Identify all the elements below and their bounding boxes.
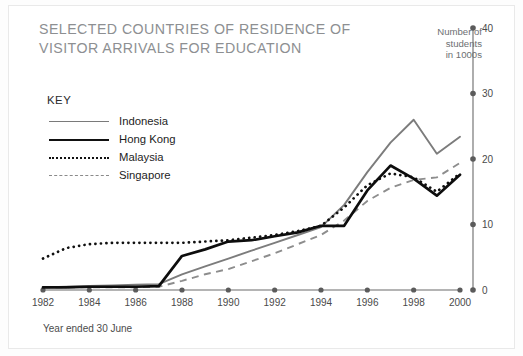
y-tick-label: 20 xyxy=(482,154,494,165)
x-tick-label: 1998 xyxy=(403,297,426,308)
figure-card: SELECTED COUNTRIES OF RESIDENCE OF VISIT… xyxy=(0,0,523,356)
series-line-hong-kong xyxy=(43,166,460,288)
x-tick-dot xyxy=(179,287,184,292)
x-tick-label: 1984 xyxy=(78,297,101,308)
x-tick-label: 1986 xyxy=(125,297,148,308)
y-tick-dot xyxy=(470,287,476,293)
x-tick-label: 1990 xyxy=(217,297,240,308)
series-group xyxy=(43,120,460,288)
figure-inner: SELECTED COUNTRIES OF RESIDENCE OF VISIT… xyxy=(9,6,514,348)
tick-labels-group: 1982198419861988199019921994199619982000… xyxy=(32,23,494,308)
y-tick-dot xyxy=(470,156,476,162)
x-tick-label: 1992 xyxy=(264,297,287,308)
x-tick-dot xyxy=(411,287,416,292)
x-tick-label: 1994 xyxy=(310,297,333,308)
x-tick-label: 2000 xyxy=(449,297,472,308)
x-tick-dot xyxy=(318,287,323,292)
y-tick-dot xyxy=(470,222,476,228)
y-tick-dot xyxy=(470,91,476,97)
y-tick-label: 30 xyxy=(482,88,494,99)
series-line-singapore xyxy=(43,163,460,287)
y-tick-label: 0 xyxy=(482,285,488,296)
chart-canvas: 1982198419861988199019921994199619982000… xyxy=(9,6,514,346)
x-tick-dot xyxy=(457,287,462,292)
x-tick-label: 1988 xyxy=(171,297,194,308)
x-tick-dot xyxy=(226,287,231,292)
x-tick-label: 1996 xyxy=(356,297,379,308)
x-axis-caption: Year ended 30 June xyxy=(43,323,132,334)
x-tick-dot xyxy=(87,287,92,292)
x-tick-dot xyxy=(272,287,277,292)
x-tick-dot xyxy=(365,287,370,292)
plot-area: 1982198419861988199019921994199619982000… xyxy=(9,6,514,348)
axes-group xyxy=(40,25,475,293)
y-tick-label: 10 xyxy=(482,219,494,230)
y-tick-dot xyxy=(470,25,476,31)
x-tick-label: 1982 xyxy=(32,297,55,308)
y-tick-label: 40 xyxy=(482,23,494,34)
series-line-indonesia xyxy=(43,120,460,288)
